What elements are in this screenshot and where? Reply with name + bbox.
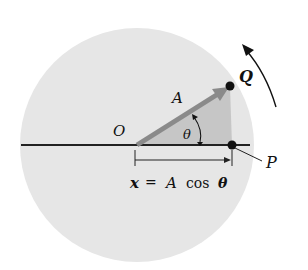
amplitude-label: A <box>170 89 183 107</box>
angle-label: θ <box>183 127 191 142</box>
point-q <box>226 82 235 91</box>
rotation-arrowhead-icon <box>242 44 254 56</box>
point-p-label: P <box>265 153 277 172</box>
equation-a: A <box>164 174 177 192</box>
origin-label: O <box>113 122 125 140</box>
equation-cos: cos <box>186 175 209 191</box>
equation-theta: θ <box>218 175 228 191</box>
equation-equals: = <box>145 174 157 190</box>
equation-x: x <box>129 174 140 192</box>
point-q-label: Q <box>239 67 253 86</box>
reference-circle-diagram: O A θ Q P x = A cos θ <box>0 0 308 270</box>
